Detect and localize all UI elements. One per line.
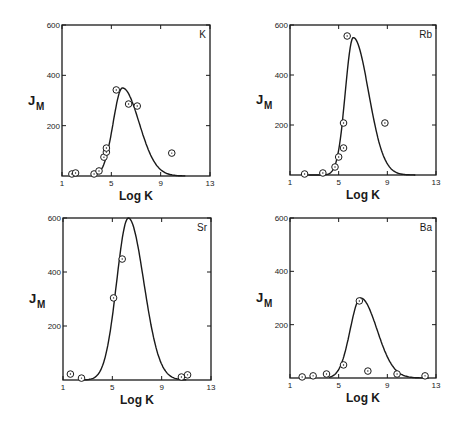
data-point-center: [326, 373, 327, 374]
data-point-center: [70, 373, 71, 374]
panel-label: Sr: [197, 222, 208, 233]
x-tick-label: 9: [385, 381, 390, 390]
x-tick-label: 13: [432, 178, 441, 187]
y-axis-label-subscript: M: [264, 298, 272, 309]
data-point-center: [343, 147, 344, 148]
y-tick-label: 200: [47, 122, 61, 131]
data-point-center: [343, 122, 344, 123]
x-axis-label: Log K: [346, 188, 380, 202]
y-axis-label: J: [28, 93, 35, 108]
data-point-center: [98, 170, 99, 171]
x-tick-label: 5: [336, 178, 341, 187]
data-point-center: [81, 377, 82, 378]
x-tick-label: 1: [60, 179, 65, 188]
data-point-center: [103, 156, 104, 157]
data-point-center: [187, 374, 188, 375]
x-tick-label: 13: [207, 383, 216, 392]
x-tick-label: 5: [110, 383, 115, 392]
data-point-center: [343, 364, 344, 365]
y-tick-label: 200: [48, 322, 62, 331]
y-axis-label: J: [29, 291, 36, 306]
data-point-center: [338, 156, 339, 157]
x-tick-label: 1: [288, 178, 293, 187]
y-tick-label: 600: [48, 214, 62, 223]
data-point-center: [75, 172, 76, 173]
data-point-center: [346, 35, 347, 36]
x-axis-label: Log K: [119, 189, 153, 203]
x-axis-label: Log K: [120, 393, 154, 407]
data-point-center: [171, 152, 172, 153]
x-tick-label: 13: [432, 381, 441, 390]
data-point-center: [424, 375, 425, 376]
data-point-center: [322, 172, 323, 173]
data-point-center: [334, 166, 335, 167]
y-tick-label: 600: [47, 21, 61, 30]
data-point-center: [106, 147, 107, 148]
figure: 15913200400600Log KJMK 15913200400600Log…: [0, 0, 464, 426]
y-tick-label: 600: [275, 21, 289, 30]
panel-label: K: [199, 29, 206, 40]
y-axis-label-subscript: M: [37, 299, 45, 310]
fitted-curve: [93, 88, 186, 176]
y-tick-label: 200: [275, 321, 289, 330]
fitted-curve: [308, 38, 415, 175]
y-tick-label: 200: [275, 121, 289, 130]
data-point-center: [396, 373, 397, 374]
x-axis-label: Log K: [346, 391, 380, 405]
panel: 15913200400600Log KJMSr: [29, 214, 216, 407]
x-tick-label: 5: [109, 179, 114, 188]
panel: 15913200400600Log KJMK: [28, 21, 215, 203]
data-point-center: [137, 105, 138, 106]
data-point-center: [301, 376, 302, 377]
y-tick-label: 400: [275, 267, 289, 276]
plot-frame: [290, 218, 436, 378]
data-point-center: [367, 370, 368, 371]
x-tick-label: 9: [158, 179, 163, 188]
y-tick-label: 400: [47, 71, 61, 80]
data-point-center: [93, 173, 94, 174]
panel-label: Ba: [420, 222, 433, 233]
y-tick-label: 400: [275, 71, 289, 80]
plot-frame: [62, 25, 210, 176]
data-point-center: [113, 297, 114, 298]
x-tick-label: 5: [336, 381, 341, 390]
data-point-center: [128, 103, 129, 104]
x-tick-label: 1: [61, 383, 66, 392]
data-point-center: [359, 300, 360, 301]
panel: 15913200400600Log KJMRb: [256, 21, 441, 202]
x-tick-label: 9: [385, 178, 390, 187]
data-point-center: [122, 258, 123, 259]
data-point-center: [312, 375, 313, 376]
y-axis-label: J: [256, 290, 263, 305]
panel: 15913200400600Log KJMBa: [256, 214, 441, 405]
data-point-center: [116, 89, 117, 90]
y-axis-label-subscript: M: [36, 101, 44, 112]
y-axis-label-subscript: M: [264, 100, 272, 111]
data-point-center: [181, 376, 182, 377]
panel-label: Rb: [419, 29, 432, 40]
x-tick-label: 13: [206, 179, 215, 188]
x-tick-label: 1: [288, 381, 293, 390]
plot-frame: [290, 25, 436, 175]
data-point-center: [384, 122, 385, 123]
fitted-curve: [83, 218, 187, 380]
data-point-center: [304, 173, 305, 174]
y-tick-label: 600: [275, 214, 289, 223]
y-axis-label: J: [256, 92, 263, 107]
x-tick-label: 9: [159, 383, 164, 392]
y-tick-label: 400: [48, 268, 62, 277]
